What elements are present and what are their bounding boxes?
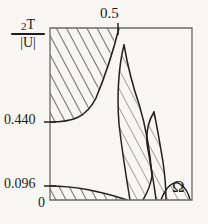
tick-label-origin: 0 <box>38 196 45 210</box>
y-axis-denominator: |U| <box>8 35 48 50</box>
tick-label-lower: 0.096 <box>4 177 36 191</box>
y-axis-symbol: T <box>26 17 35 32</box>
figure-page: 2T |U| 0.5 0.440 0.096 0 Ω <box>0 0 208 224</box>
x-axis-label: Ω <box>172 178 185 195</box>
y-axis-label: 2T |U| <box>8 18 48 50</box>
tick-label-top: 0.5 <box>100 6 119 21</box>
y-axis-numerator: 2T <box>8 18 48 33</box>
tick-label-upper: 0.440 <box>4 113 36 127</box>
